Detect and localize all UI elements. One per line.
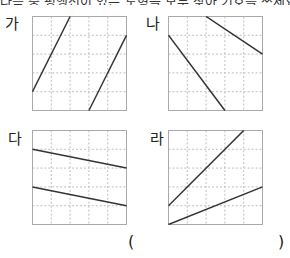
drawn-line — [32, 187, 126, 206]
answer-close-paren: ) — [278, 232, 284, 251]
panel-label-ra: 라 — [150, 132, 164, 147]
question-text: 다음 중 평행선이 있는 도형을 모두 찾아 기호를 쓰세요. — [0, 0, 290, 5]
grid-panel-na — [168, 16, 263, 111]
drawn-line — [32, 149, 126, 168]
grid-panel-da — [32, 130, 127, 225]
grid-panel-ga — [32, 16, 127, 111]
grid-panel-ra — [168, 130, 263, 225]
panel-label-na: 나 — [146, 17, 160, 32]
answer-field[interactable] — [140, 232, 270, 252]
drawn-line — [206, 16, 262, 54]
panel-label-da: 다 — [8, 132, 22, 147]
panel-label-ga: 가 — [5, 17, 19, 32]
answer-open-paren: ( — [128, 232, 134, 251]
